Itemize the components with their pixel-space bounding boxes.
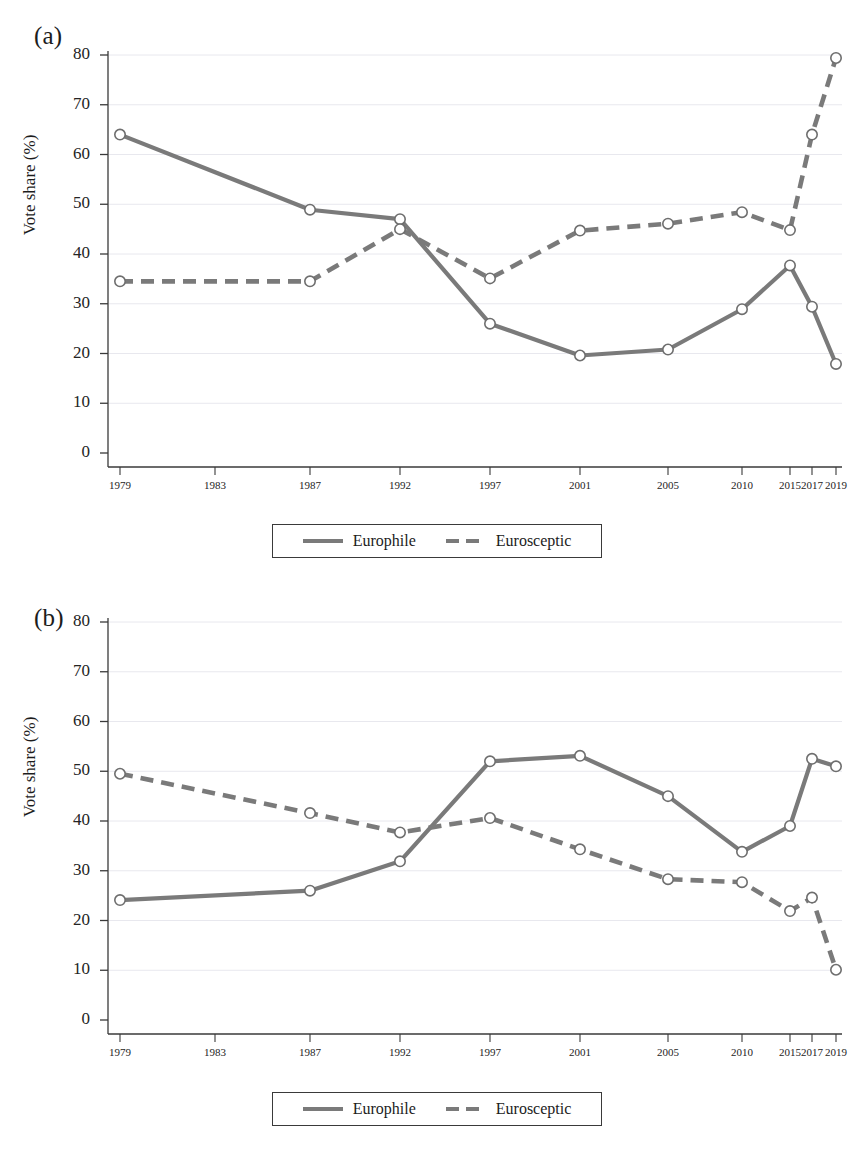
data-point-marker (737, 847, 747, 857)
legend-entry-europhile: Europhile (303, 1100, 416, 1118)
x-tick-label: 1979 (97, 1046, 143, 1058)
legend-label-europhile: Europhile (353, 1100, 416, 1118)
y-tick-label: 70 (56, 94, 90, 114)
y-tick-label: 80 (56, 44, 90, 64)
solid-line-icon (303, 1107, 343, 1111)
y-tick-label: 30 (56, 293, 90, 313)
legend-label-eurosceptic: Eurosceptic (496, 532, 572, 550)
plot-area-a: Vote share (%) 0102030405060708019791983… (0, 0, 857, 520)
x-tick-label: 2019 (813, 1046, 857, 1058)
x-tick-label: 1992 (377, 1046, 423, 1058)
legend-entry-europhile: Europhile (303, 532, 416, 550)
data-point-marker (305, 885, 315, 895)
data-point-marker (831, 359, 841, 369)
series-line-europhile (120, 135, 836, 364)
series-line-europhile (120, 756, 836, 900)
x-tick-label: 1987 (287, 1046, 333, 1058)
data-point-marker (485, 318, 495, 328)
panel-b: (b) Vote share (%) 010203040506070801979… (0, 582, 857, 1164)
plot-area-b: Vote share (%) 0102030405060708019791983… (0, 582, 857, 1102)
data-point-marker (575, 844, 585, 854)
x-tick-label: 1997 (467, 1046, 513, 1058)
y-tick-label: 50 (56, 760, 90, 780)
legend-entry-eurosceptic: Eurosceptic (446, 1100, 572, 1118)
data-point-marker (395, 214, 405, 224)
data-point-marker (395, 827, 405, 837)
data-point-marker (663, 874, 673, 884)
y-tick-label: 20 (56, 910, 90, 930)
y-tick-label: 60 (56, 144, 90, 164)
dashed-line-icon (446, 1107, 486, 1111)
x-tick-label: 2001 (557, 479, 603, 491)
x-tick-label: 2001 (557, 1046, 603, 1058)
x-tick-label: 1979 (97, 479, 143, 491)
data-point-marker (807, 754, 817, 764)
data-point-marker (663, 791, 673, 801)
data-point-marker (807, 302, 817, 312)
chart-canvas-a (0, 0, 857, 520)
x-tick-label: 2005 (645, 479, 691, 491)
y-tick-label: 0 (56, 1009, 90, 1029)
y-tick-label: 70 (56, 661, 90, 681)
data-point-marker (831, 965, 841, 975)
data-point-marker (575, 350, 585, 360)
x-tick-label: 1992 (377, 479, 423, 491)
data-point-marker (485, 813, 495, 823)
data-point-marker (663, 218, 673, 228)
data-point-marker (305, 808, 315, 818)
data-point-marker (115, 769, 125, 779)
data-point-marker (737, 304, 747, 314)
data-point-marker (575, 225, 585, 235)
y-tick-label: 10 (56, 392, 90, 412)
x-tick-label: 2019 (813, 479, 857, 491)
data-point-marker (305, 276, 315, 286)
y-tick-label: 50 (56, 193, 90, 213)
y-tick-label: 40 (56, 810, 90, 830)
legend-label-eurosceptic: Eurosceptic (496, 1100, 572, 1118)
y-tick-label: 60 (56, 711, 90, 731)
data-point-marker (305, 205, 315, 215)
data-point-marker (807, 892, 817, 902)
y-tick-label: 30 (56, 860, 90, 880)
legend-b: Europhile Eurosceptic (272, 1092, 602, 1126)
data-point-marker (115, 276, 125, 286)
data-point-marker (485, 273, 495, 283)
y-tick-label: 20 (56, 343, 90, 363)
data-point-marker (785, 906, 795, 916)
data-point-marker (395, 856, 405, 866)
panel-a: (a) Vote share (%) 010203040506070801979… (0, 0, 857, 582)
data-point-marker (115, 895, 125, 905)
y-tick-label: 40 (56, 243, 90, 263)
legend-entry-eurosceptic: Eurosceptic (446, 532, 572, 550)
chart-canvas-b (0, 582, 857, 1102)
dashed-line-icon (446, 539, 486, 543)
data-point-marker (575, 751, 585, 761)
x-tick-label: 2005 (645, 1046, 691, 1058)
data-point-marker (831, 53, 841, 63)
x-tick-label: 2010 (719, 479, 765, 491)
data-point-marker (485, 756, 495, 766)
x-tick-label: 1997 (467, 479, 513, 491)
data-point-marker (807, 129, 817, 139)
series-line-eurosceptic (120, 774, 836, 970)
data-point-marker (737, 877, 747, 887)
x-tick-label: 2010 (719, 1046, 765, 1058)
solid-line-icon (303, 539, 343, 543)
data-point-marker (831, 761, 841, 771)
data-point-marker (115, 129, 125, 139)
series-line-eurosceptic (120, 58, 836, 281)
data-point-marker (663, 344, 673, 354)
x-tick-label: 1987 (287, 479, 333, 491)
y-tick-label: 80 (56, 611, 90, 631)
x-tick-label: 1983 (192, 479, 238, 491)
legend-label-europhile: Europhile (353, 532, 416, 550)
y-tick-label: 10 (56, 959, 90, 979)
data-point-marker (395, 224, 405, 234)
data-point-marker (785, 821, 795, 831)
data-point-marker (737, 207, 747, 217)
x-tick-label: 1983 (192, 1046, 238, 1058)
data-point-marker (785, 225, 795, 235)
data-point-marker (785, 260, 795, 270)
y-tick-label: 0 (56, 442, 90, 462)
legend-a: Europhile Eurosceptic (272, 524, 602, 558)
